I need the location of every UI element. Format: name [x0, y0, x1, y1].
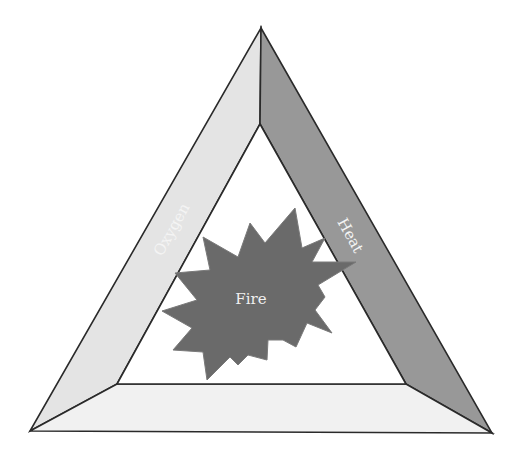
fire-label: Fire — [235, 290, 266, 308]
fire-triangle-diagram: Oxygen Heat Fire — [0, 0, 527, 460]
